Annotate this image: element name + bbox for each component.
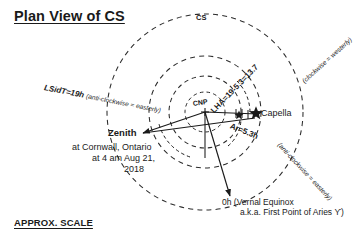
label-location-line2: at 4 am Aug 21, <box>92 153 155 163</box>
label-capella: Capella <box>261 108 292 118</box>
radial-vernal-equinox <box>205 112 230 196</box>
page-title: Plan View of CS <box>14 8 125 24</box>
diagram-canvas: Plan View of CS APPROX. SCALE CS CNP Cap… <box>0 0 356 245</box>
label-location-line1: at Cornwall, Ontario <box>72 142 152 152</box>
label-zenith: Zenith <box>108 128 137 139</box>
label-location-line3: 2018 <box>124 164 144 174</box>
approx-scale-note: APPROX. SCALE <box>14 218 93 229</box>
label-celestial-sphere: CS <box>196 14 206 22</box>
label-vernal-equinox-line2: a.k.a. First Point of Aries ϒ) <box>240 208 344 218</box>
